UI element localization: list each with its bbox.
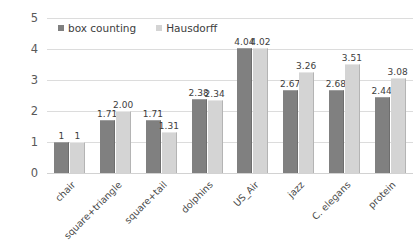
bar-groups: 111.712.001.711.312.382.344.044.022.673.… bbox=[47, 18, 413, 173]
x-axis-label-slot: C. elegans bbox=[322, 176, 368, 246]
bar-wrapper: 1 bbox=[54, 142, 69, 173]
bar-value-label: 2.00 bbox=[113, 101, 133, 110]
bar-chart: 012345 box counting Hausdorff 111.712.00… bbox=[0, 0, 420, 251]
bar-wrapper: 4.04 bbox=[237, 48, 252, 173]
bar-group: 1.712.00 bbox=[93, 18, 139, 173]
bar-value-label: 3.51 bbox=[342, 54, 362, 63]
y-axis-tick-1: 1 bbox=[31, 135, 38, 149]
y-axis-tick-2: 2 bbox=[31, 104, 38, 118]
bar-value-label: 3.26 bbox=[296, 62, 316, 71]
bar-hausdorff[interactable]: 3.08 bbox=[391, 78, 406, 173]
bar-wrapper: 1.31 bbox=[162, 132, 177, 173]
legend-entry-hausdorff[interactable]: Hausdorff bbox=[156, 22, 217, 34]
bar-value-label: 1.71 bbox=[97, 110, 117, 119]
bar-group: 11 bbox=[47, 18, 93, 173]
bar-value-label: 2.68 bbox=[326, 80, 346, 89]
bar-value-label: 2.67 bbox=[280, 80, 300, 89]
bar-box-counting[interactable]: 4.04 bbox=[237, 48, 252, 173]
gridline-0 bbox=[47, 173, 413, 174]
bar-box-counting[interactable]: 1 bbox=[54, 142, 69, 173]
bar-box-counting[interactable]: 2.67 bbox=[283, 90, 298, 173]
bar-hausdorff[interactable]: 2.00 bbox=[116, 111, 131, 173]
x-axis-label-slot: dolphins bbox=[184, 176, 230, 246]
y-axis-tick-5: 5 bbox=[31, 11, 38, 25]
bar-hausdorff[interactable]: 1.31 bbox=[162, 132, 177, 173]
bar-wrapper: 2.34 bbox=[208, 100, 223, 173]
bar-value-label: 1 bbox=[59, 132, 65, 141]
bar-value-label: 1 bbox=[75, 132, 81, 141]
bar-wrapper: 2.44 bbox=[375, 97, 390, 173]
bar-hausdorff[interactable]: 1 bbox=[70, 142, 85, 173]
bar-wrapper: 3.26 bbox=[299, 72, 314, 173]
bar-box-counting[interactable]: 1.71 bbox=[100, 120, 115, 173]
x-axis-labels: chairsquare+trianglesquare+taildolphinsU… bbox=[47, 176, 413, 246]
legend-label-box-counting: box counting bbox=[68, 22, 136, 34]
bar-value-label: 1.31 bbox=[159, 122, 179, 131]
chart-legend: box counting Hausdorff bbox=[58, 22, 217, 34]
bar-group: 2.443.08 bbox=[367, 18, 413, 173]
bar-wrapper: 2.68 bbox=[329, 90, 344, 173]
bar-group: 2.382.34 bbox=[184, 18, 230, 173]
x-axis-label: US_Air bbox=[231, 179, 261, 209]
bar-value-label: 4.02 bbox=[250, 38, 270, 47]
legend-swatch-box-counting bbox=[58, 25, 64, 31]
bar-wrapper: 3.08 bbox=[391, 78, 406, 173]
bar-wrapper: 1 bbox=[70, 142, 85, 173]
x-axis-label: chair bbox=[53, 179, 77, 203]
bar-group: 4.044.02 bbox=[230, 18, 276, 173]
bar-box-counting[interactable]: 2.44 bbox=[375, 97, 390, 173]
bar-wrapper: 4.02 bbox=[253, 48, 268, 173]
x-axis-label: protein bbox=[366, 179, 398, 211]
bar-wrapper: 2.00 bbox=[116, 111, 131, 173]
x-axis-label-slot: protein bbox=[367, 176, 413, 246]
x-axis-label-slot: square+tail bbox=[139, 176, 185, 246]
legend-swatch-hausdorff bbox=[156, 25, 162, 31]
y-axis-tick-0: 0 bbox=[31, 166, 38, 180]
bar-wrapper: 2.67 bbox=[283, 90, 298, 173]
bar-group: 1.711.31 bbox=[139, 18, 185, 173]
bar-hausdorff[interactable]: 2.34 bbox=[208, 100, 223, 173]
bar-hausdorff[interactable]: 3.51 bbox=[345, 64, 360, 173]
bar-hausdorff[interactable]: 3.26 bbox=[299, 72, 314, 173]
bar-wrapper: 1.71 bbox=[100, 120, 115, 173]
y-axis-tick-3: 3 bbox=[31, 73, 38, 87]
legend-label-hausdorff: Hausdorff bbox=[166, 22, 217, 34]
bar-hausdorff[interactable]: 4.02 bbox=[253, 48, 268, 173]
bar-box-counting[interactable]: 2.38 bbox=[192, 99, 207, 173]
x-axis-label: dolphins bbox=[179, 179, 215, 215]
bar-value-label: 1.71 bbox=[143, 110, 163, 119]
bar-group: 2.683.51 bbox=[322, 18, 368, 173]
legend-entry-box-counting[interactable]: box counting bbox=[58, 22, 136, 34]
x-axis-label-slot: US_Air bbox=[230, 176, 276, 246]
bar-wrapper: 2.38 bbox=[192, 99, 207, 173]
x-axis-label: jazz bbox=[286, 179, 307, 200]
bar-value-label: 2.34 bbox=[205, 90, 225, 99]
bar-group: 2.673.26 bbox=[276, 18, 322, 173]
bar-value-label: 3.08 bbox=[388, 68, 408, 77]
bar-box-counting[interactable]: 2.68 bbox=[329, 90, 344, 173]
y-axis-tick-4: 4 bbox=[31, 42, 38, 56]
bar-wrapper: 3.51 bbox=[345, 64, 360, 173]
bar-value-label: 2.44 bbox=[372, 87, 392, 96]
